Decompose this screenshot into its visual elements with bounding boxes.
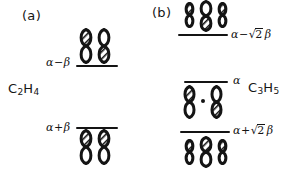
orbital-b-nonbonding-2 — [209, 85, 224, 119]
panel-b-caption: (b) — [152, 5, 171, 20]
energy-level-line-b-antibonding — [178, 34, 228, 36]
panel-b-molecule-label: C3H5 — [248, 80, 279, 95]
molecule-count-h: 4 — [34, 87, 40, 97]
energy-label-b-bonding: α+√2β — [233, 124, 273, 137]
orbital-b-antibonding-2 — [198, 0, 214, 32]
orbital-b-bonding-1 — [184, 139, 195, 165]
energy-level-line-b-nonbonding — [184, 81, 228, 83]
orbital-b-bonding-3 — [217, 139, 228, 165]
molecule-count-h: 5 — [274, 86, 280, 96]
beta-symbol: β — [267, 124, 273, 137]
molecule-count-c: 2 — [18, 87, 24, 97]
mo-energy-diagram-figure: (a) C2H4 α−β α+β (b) — [0, 0, 299, 170]
radicand: 2 — [257, 124, 265, 137]
orbital-a-bonding-2 — [96, 129, 112, 165]
molecule-count-c: 3 — [258, 86, 264, 96]
alpha-symbol: α — [233, 74, 240, 87]
beta-symbol: β — [64, 56, 70, 69]
radical-group: √2 — [251, 124, 265, 137]
node-dot-icon — [201, 99, 205, 103]
operator-symbol: + — [240, 124, 250, 137]
molecule-element-h: H — [23, 81, 33, 96]
molecule-element-c: C — [248, 80, 258, 95]
beta-symbol: β — [64, 121, 70, 134]
panel-a-molecule-label: C2H4 — [8, 81, 39, 96]
energy-level-line-b-bonding — [180, 131, 230, 133]
energy-label-b-antibonding: α−√2β — [231, 28, 271, 41]
orbital-a-antibonding-2 — [96, 28, 112, 64]
beta-symbol: β — [265, 28, 271, 41]
orbital-b-antibonding-3 — [217, 2, 228, 28]
molecule-element-c: C — [8, 81, 18, 96]
operator-symbol: + — [53, 121, 63, 134]
radical-group: √2 — [249, 28, 263, 41]
orbital-b-bonding-2 — [198, 136, 214, 168]
orbital-a-bonding-1 — [78, 129, 94, 165]
orbital-b-antibonding-1 — [184, 2, 195, 28]
energy-level-line-a-antibonding — [76, 65, 118, 67]
energy-label-a-bonding: α+β — [46, 121, 70, 134]
energy-label-a-antibonding: α−β — [46, 56, 70, 69]
panel-a-caption: (a) — [22, 8, 41, 23]
operator-symbol: − — [53, 56, 63, 69]
radicand: 2 — [255, 28, 263, 41]
orbital-b-nonbonding-1 — [182, 85, 197, 119]
energy-label-b-nonbonding: α — [233, 74, 240, 87]
operator-symbol: − — [238, 28, 248, 41]
molecule-element-h: H — [263, 80, 273, 95]
orbital-a-antibonding-1 — [78, 28, 94, 64]
